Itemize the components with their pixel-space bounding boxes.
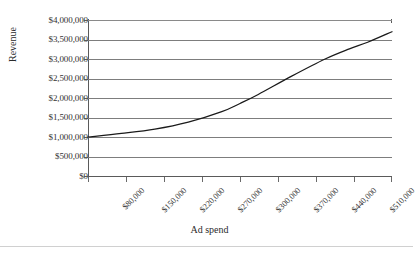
revenue-series-line: [88, 20, 392, 176]
x-tick-mark: [354, 177, 355, 182]
x-tick-label: $150,000: [160, 186, 188, 214]
x-tick-label: $300,000: [274, 186, 302, 214]
x-tick-mark: [164, 177, 165, 182]
x-tick-mark: [278, 177, 279, 182]
x-tick-label: $510,000: [388, 186, 416, 214]
x-tick-mark: [240, 177, 241, 182]
y-tick-label: $2,000,000: [4, 94, 88, 103]
x-axis-title: Ad spend: [0, 224, 413, 235]
x-axis-title-text: Ad spend: [190, 224, 228, 235]
y-axis-title: Revenue: [7, 27, 18, 62]
y-tick-label: $4,000,000: [4, 16, 88, 25]
x-tick-mark: [316, 177, 317, 182]
x-tick-label: $220,000: [198, 186, 226, 214]
x-tick-mark: [126, 177, 127, 182]
footer-divider: [0, 246, 413, 247]
y-tick-label: $500,000: [4, 152, 88, 161]
y-tick-label: $1,000,000: [4, 133, 88, 142]
x-tick-mark: [202, 177, 203, 182]
plot-area: [88, 20, 392, 176]
y-tick-label: $2,500,000: [4, 74, 88, 83]
x-tick-label: $80,000: [121, 186, 146, 211]
x-tick-label: $270,000: [236, 186, 264, 214]
x-tick-mark: [88, 177, 89, 182]
y-tick-label: $1,500,000: [4, 113, 88, 122]
y-tick-label: $0: [4, 172, 88, 181]
x-tick-label: $370,000: [312, 186, 340, 214]
x-tick-label: $440,000: [350, 186, 378, 214]
x-tick-mark: [391, 177, 392, 182]
